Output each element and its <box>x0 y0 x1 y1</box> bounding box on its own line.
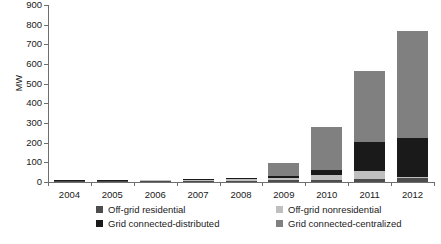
bar-segment <box>354 179 385 182</box>
bar-series-container <box>48 5 434 182</box>
x-axis-label-2006: 2006 <box>134 189 177 200</box>
legend-swatch-icon <box>96 206 103 213</box>
legend-label: Grid connected-distributed <box>108 218 219 229</box>
x-axis-label-2008: 2008 <box>220 189 263 200</box>
bar-segment <box>226 181 257 182</box>
bar-2010 <box>311 127 342 182</box>
x-tick-mark <box>220 182 221 186</box>
x-tick-mark <box>134 182 135 186</box>
x-tick-mark <box>177 182 178 186</box>
bar-2009 <box>268 163 299 182</box>
y-tick-label: 200 <box>26 138 42 147</box>
y-tick-label: 700 <box>26 39 42 48</box>
y-tick-label: 500 <box>26 79 42 88</box>
y-tick-label: 900 <box>26 0 42 9</box>
bar-2008 <box>226 178 257 182</box>
x-axis-label-2004: 2004 <box>48 189 91 200</box>
bar-segment <box>354 142 385 171</box>
x-tick-mark <box>348 182 349 186</box>
legend-label: Grid connected-centralized <box>288 218 402 229</box>
bar-2007 <box>183 179 214 182</box>
legend-swatch-icon <box>276 206 283 213</box>
y-axis-label: MW <box>14 63 24 103</box>
x-tick-mark <box>91 182 92 186</box>
x-tick-mark <box>48 182 49 186</box>
bar-segment <box>97 181 128 182</box>
bar-segment <box>354 171 385 179</box>
x-tick-mark <box>434 182 435 186</box>
legend-item[interactable]: Off-grid residential <box>96 204 276 215</box>
solar-capacity-stacked-bar-chart: MW 0100200300400500600700800900 20042005… <box>0 0 441 244</box>
legend-swatch-icon <box>96 220 103 227</box>
legend-item[interactable]: Off-grid nonresidential <box>276 204 441 215</box>
bar-2012 <box>397 31 428 182</box>
bar-segment <box>354 71 385 142</box>
x-axis-line <box>44 182 434 183</box>
x-tick-mark <box>391 182 392 186</box>
bar-2006 <box>140 180 171 182</box>
plot-area: 0100200300400500600700800900 20042005200… <box>48 5 434 182</box>
y-tick-label: 400 <box>26 98 42 107</box>
bar-segment <box>397 138 428 176</box>
x-axis-label-2005: 2005 <box>91 189 134 200</box>
legend-label: Off-grid residential <box>108 204 185 215</box>
bar-segment <box>140 181 171 182</box>
y-tick-label: 0 <box>37 177 42 186</box>
bar-segment <box>268 180 299 182</box>
bar-2004 <box>54 180 85 182</box>
chart-legend: Off-grid residentialOff-grid nonresident… <box>96 204 436 229</box>
x-axis-label-2011: 2011 <box>348 189 391 200</box>
legend-item[interactable]: Grid connected-centralized <box>276 218 441 229</box>
bar-segment <box>311 127 342 170</box>
x-axis-label-2010: 2010 <box>305 189 348 200</box>
x-tick-mark <box>305 182 306 186</box>
legend-swatch-icon <box>276 220 283 227</box>
x-axis-label-2007: 2007 <box>177 189 220 200</box>
bar-segment <box>268 163 299 175</box>
legend-label: Off-grid nonresidential <box>288 204 381 215</box>
bar-segment <box>397 31 428 138</box>
bar-segment <box>397 178 428 182</box>
bar-segment <box>54 181 85 182</box>
y-tick-label: 600 <box>26 59 42 68</box>
x-tick-mark <box>262 182 263 186</box>
bar-2005 <box>97 180 128 182</box>
x-axis-label-2012: 2012 <box>391 189 434 200</box>
x-axis-label-2009: 2009 <box>262 189 305 200</box>
y-tick-label: 300 <box>26 118 42 127</box>
legend-item[interactable]: Grid connected-distributed <box>96 218 276 229</box>
bar-segment <box>183 181 214 182</box>
y-tick-label: 100 <box>26 157 42 166</box>
bar-segment <box>311 180 342 182</box>
bar-2011 <box>354 71 385 182</box>
y-tick-label: 800 <box>26 20 42 29</box>
